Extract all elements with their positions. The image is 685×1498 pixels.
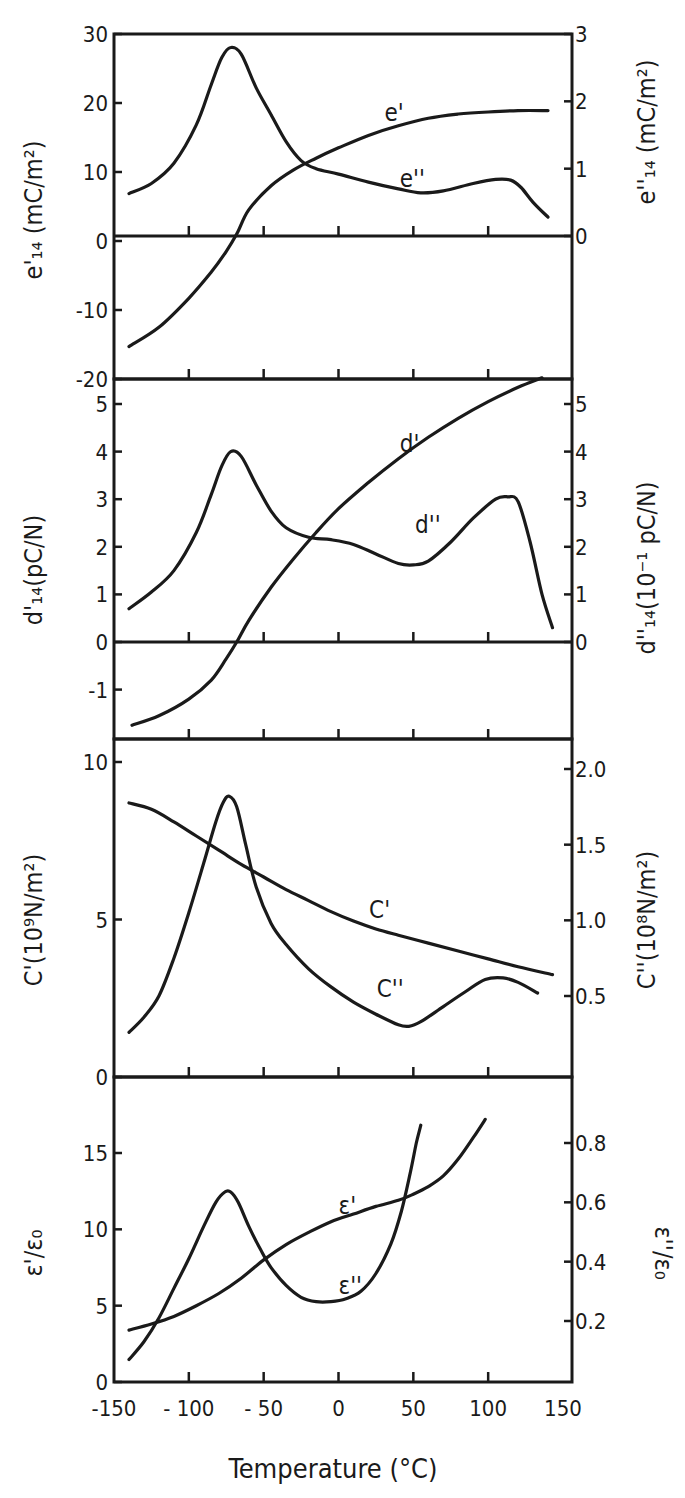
y-tick-label-left: 15	[83, 1141, 108, 1166]
curve-label: e'	[384, 99, 403, 127]
panel-e14: 3020100-10-203210e'e''	[76, 22, 588, 392]
y-tick-label-right: 0.4	[575, 1250, 606, 1275]
y-tick-label-right: 1.0	[575, 908, 606, 933]
y-tick-label-right: 1.5	[575, 833, 606, 858]
eps-left-axis-title: ε'/ε₀	[19, 1229, 48, 1276]
y-tick-label-left: 10	[83, 160, 108, 185]
curve-dp	[132, 378, 542, 726]
figure: 3020100-10-203210e'e'' 543210-1543210d'd…	[0, 0, 685, 1498]
y-tick-label-left: 4	[95, 440, 108, 465]
y-tick-label-right: 0.2	[575, 1309, 606, 1334]
panel-permittivity: 1510500.80.60.40.2ε'ε''	[83, 1077, 607, 1395]
e-left-axis-title: e'₁₄ (mC/m²)	[19, 141, 48, 280]
curve-label: d'	[400, 430, 420, 458]
d-right-axis-title: d''₁₄(10⁻¹ pC/N)	[632, 481, 661, 654]
y-tick-label-left: 0	[95, 630, 108, 655]
panel-frame	[114, 34, 572, 379]
panel-frame	[114, 739, 572, 1077]
panel-frame	[114, 1077, 572, 1382]
curve-dpp	[129, 451, 553, 628]
y-tick-label-left: 0	[95, 1370, 108, 1395]
y-tick-label-right: 3	[575, 487, 588, 512]
y-tick-label-left: 5	[95, 392, 108, 417]
y-tick-label-right: 0.5	[575, 984, 606, 1009]
x-tick-label: 50	[401, 1396, 426, 1421]
y-tick-label-left: 2	[95, 535, 108, 560]
e-right-axis-title: e''₁₄ (mC/m²)	[632, 59, 661, 204]
curve-label: d''	[415, 511, 441, 539]
y-tick-label-right: 0	[575, 630, 588, 655]
y-tick-label-right: 1	[575, 582, 588, 607]
eps-right-axis-title: ε''/ε₀	[649, 1226, 678, 1279]
y-tick-label-right: 4	[575, 440, 588, 465]
panel-d14: 543210-1543210d'd''	[88, 378, 587, 739]
x-tick-label: 150	[544, 1396, 582, 1421]
y-tick-label-right: 0	[575, 224, 588, 249]
y-tick-label-left: 30	[83, 22, 108, 47]
y-tick-label-right: 2	[575, 535, 588, 560]
y-tick-label-left: 1	[95, 582, 108, 607]
y-tick-label-left: -10	[76, 298, 108, 323]
x-tick-label: 100	[469, 1396, 507, 1421]
y-tick-label-right: 1	[575, 157, 588, 182]
y-tick-label-left: -1	[88, 678, 108, 703]
y-tick-label-right: 2	[575, 89, 588, 114]
y-tick-label-left: 0	[95, 229, 108, 254]
panel-elastic-c: 10502.01.51.00.5C'C''	[83, 739, 607, 1090]
y-tick-label-left: 10	[83, 750, 108, 775]
y-tick-label-left: 3	[95, 487, 108, 512]
curve-label: e''	[400, 165, 425, 193]
curve-epspp	[129, 1125, 421, 1359]
c-left-axis-title: C'(10⁹N/m²)	[19, 854, 48, 986]
c-right-axis-title: C''(10⁸N/m²)	[632, 851, 661, 990]
curve-label: C'	[369, 896, 390, 924]
y-tick-label-right: 2.0	[575, 757, 606, 782]
curve-Cp	[129, 803, 553, 975]
x-axis-title: Temperature (°C)	[227, 1453, 437, 1484]
curve-epp	[129, 47, 548, 217]
y-tick-label-right: 0.6	[575, 1190, 606, 1215]
y-tick-label-left: 0	[95, 1065, 108, 1090]
curve-label: C''	[377, 975, 404, 1003]
x-tick-label: 0	[332, 1396, 345, 1421]
y-tick-label-left: -20	[76, 367, 108, 392]
x-tick-label: - 50	[244, 1396, 283, 1421]
y-tick-label-right: 3	[575, 22, 588, 47]
x-tick-labels: -150- 100- 50050100150	[92, 1396, 582, 1421]
curve-label: ε''	[339, 1272, 363, 1300]
x-tick-label: - 100	[163, 1396, 214, 1421]
curve-label: ε'	[339, 1192, 357, 1220]
y-tick-label-left: 10	[83, 1217, 108, 1242]
y-tick-label-left: 5	[95, 908, 108, 933]
y-tick-label-left: 20	[83, 91, 108, 116]
x-tick-label: -150	[92, 1396, 137, 1421]
y-tick-label-left: 5	[95, 1294, 108, 1319]
y-tick-label-right: 0.8	[575, 1131, 606, 1156]
d-left-axis-title: d'₁₄(pC/N)	[19, 515, 48, 625]
y-tick-label-right: 5	[575, 392, 588, 417]
